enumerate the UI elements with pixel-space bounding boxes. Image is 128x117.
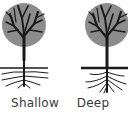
tree-shallow-roots-icon xyxy=(0,0,64,96)
roots xyxy=(86,68,126,93)
shallow-label: Shallow xyxy=(3,96,67,110)
shallow-root-panel: Shallow xyxy=(0,0,64,117)
tree-deep-roots-icon xyxy=(64,0,128,96)
deep-label: Deep xyxy=(61,96,125,110)
roots xyxy=(2,60,48,88)
deep-root-panel: Deep xyxy=(64,0,128,117)
